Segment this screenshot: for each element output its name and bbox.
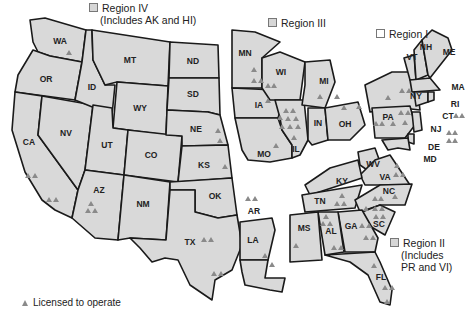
label-me: ME xyxy=(443,47,456,57)
label-va: VA xyxy=(379,172,390,182)
licensed-legend: Licensed to operate xyxy=(22,297,121,308)
label-ga: GA xyxy=(345,221,358,231)
label-ok: OK xyxy=(209,191,223,201)
label-id: ID xyxy=(88,82,97,92)
state-la xyxy=(240,260,285,292)
region-iii-states xyxy=(232,30,365,162)
label-nj: NJ xyxy=(431,124,442,134)
region-ii-note-2: PR and VI) xyxy=(390,261,452,273)
region-ii-label: Region II xyxy=(403,237,445,249)
label-ks: KS xyxy=(198,160,210,170)
label-al: AL xyxy=(325,226,336,236)
region-ii-note-1: (Includes xyxy=(390,249,444,261)
south-central-states xyxy=(240,218,285,292)
label-pa: PA xyxy=(382,112,393,122)
label-wi: WI xyxy=(276,67,286,77)
region-ii-legend: Region II (Includes PR and VI) xyxy=(390,237,452,273)
label-co: CO xyxy=(145,150,158,160)
label-nd: ND xyxy=(187,56,199,66)
label-ut: UT xyxy=(101,140,113,150)
label-oh: OH xyxy=(339,119,352,129)
label-ri: RI xyxy=(451,99,460,109)
region-i-legend: Region I xyxy=(376,28,428,40)
label-wa: WA xyxy=(53,36,67,46)
label-tx: TX xyxy=(185,237,196,247)
label-wv: WV xyxy=(366,159,380,169)
state-ri xyxy=(428,92,434,102)
region-iv-legend: Region IV (Includes AK and HI) xyxy=(89,2,196,26)
label-il: IL xyxy=(292,144,300,154)
region-iii-label: Region III xyxy=(281,17,326,29)
label-in: IN xyxy=(314,118,323,128)
region-iii-swatch xyxy=(268,18,277,27)
label-ia: IA xyxy=(255,100,264,110)
label-nm: NM xyxy=(136,199,149,209)
label-ar: AR xyxy=(248,206,260,216)
region-iv-note: (Includes AK and HI) xyxy=(89,14,196,26)
label-la: LA xyxy=(247,235,258,245)
label-nv: NV xyxy=(60,128,72,138)
label-md: MD xyxy=(423,154,436,164)
label-ct: CT xyxy=(442,111,454,121)
state-ms xyxy=(290,212,322,262)
label-fl: FL xyxy=(376,272,386,282)
label-mn: MN xyxy=(238,48,251,58)
label-vt: VT xyxy=(407,52,419,62)
state-md xyxy=(382,138,410,150)
region-iii-legend: Region III xyxy=(268,17,326,29)
state-nj xyxy=(412,112,422,132)
label-ca: CA xyxy=(23,137,35,147)
label-ky: KY xyxy=(336,176,348,186)
triangle-icon xyxy=(22,300,28,306)
label-de: DE xyxy=(428,142,440,152)
label-az: AZ xyxy=(93,185,104,195)
label-mt: MT xyxy=(124,55,137,65)
label-ne: NE xyxy=(190,124,202,134)
label-or: OR xyxy=(40,74,53,84)
label-sc: SC xyxy=(373,219,385,229)
region-ii-swatch xyxy=(390,238,399,247)
label-nc: NC xyxy=(383,186,395,196)
label-mo: MO xyxy=(257,149,271,159)
label-ms: MS xyxy=(298,223,311,233)
label-sd: SD xyxy=(187,89,199,99)
region-i-swatch xyxy=(376,29,385,38)
label-tn: TN xyxy=(314,196,325,206)
label-mi: MI xyxy=(319,76,328,86)
label-wy: WY xyxy=(133,103,147,113)
region-iv-swatch xyxy=(89,3,98,12)
licensed-legend-label: Licensed to operate xyxy=(33,297,121,308)
state-ma xyxy=(410,78,440,92)
region-iv-label: Region IV xyxy=(102,2,148,14)
label-ma: MA xyxy=(451,82,464,92)
region-i-label: Region I xyxy=(389,28,428,40)
label-ny: NY xyxy=(410,91,422,101)
label-nh: NH xyxy=(420,42,432,52)
